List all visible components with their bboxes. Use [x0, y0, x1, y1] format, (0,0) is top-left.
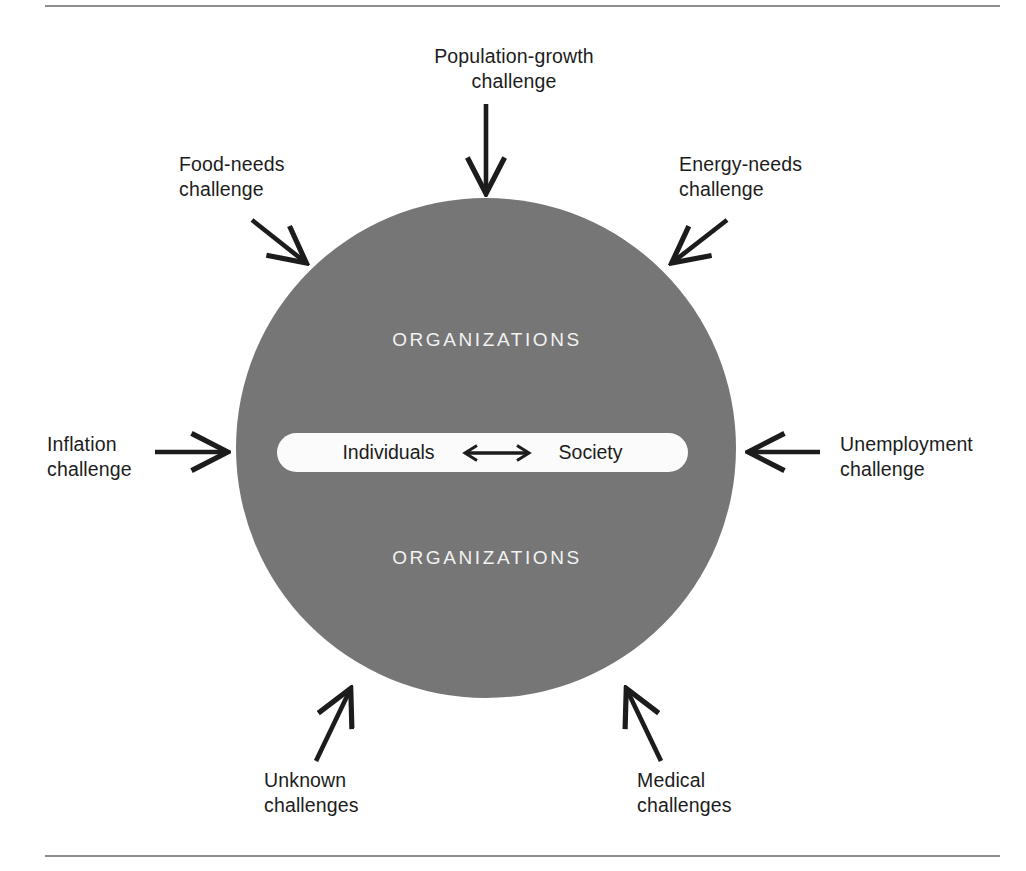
individuals-society-core: Individuals Society: [277, 433, 688, 472]
organizations-label-upper: ORGANIZATIONS: [237, 329, 737, 351]
society-label: Society: [559, 441, 623, 464]
individuals-label: Individuals: [342, 441, 434, 464]
challenge-label-unemployment: Unemployment challenge: [840, 432, 1025, 482]
challenge-label-medical: Medical challenges: [637, 768, 817, 818]
challenge-label-inflation: Inflation challenge: [47, 432, 207, 482]
arrow-down-right-icon-food-needs: [252, 220, 305, 262]
arrow-up-right-icon-unknown: [316, 690, 350, 761]
arrow-up-left-icon-medical: [627, 690, 661, 761]
organizations-label-lower: ORGANIZATIONS: [237, 547, 737, 569]
challenge-label-unknown: Unknown challenges: [264, 768, 444, 818]
double-headed-arrow-icon: [455, 443, 539, 463]
figure-page: Individuals Society ORGANIZATIONS ORGANI…: [0, 0, 1026, 871]
challenge-label-energy-needs: Energy-needs challenge: [679, 152, 879, 202]
arrow-down-left-icon-energy-needs: [673, 220, 727, 262]
challenge-label-food-needs: Food-needs challenge: [179, 152, 369, 202]
challenge-label-population-growth: Population-growth challenge: [404, 44, 624, 94]
